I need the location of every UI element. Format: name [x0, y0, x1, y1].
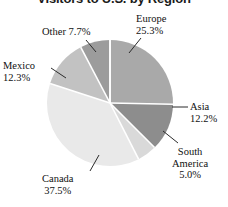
- label-canada: Canada 37.5%: [42, 173, 74, 196]
- label-asia-name: Asia: [190, 101, 217, 113]
- label-europe-pct: 25.3%: [136, 25, 166, 37]
- label-other-name: Other: [42, 26, 69, 37]
- label-south-america-name-line2: America: [172, 158, 208, 170]
- label-south-america-name-line1: South: [172, 146, 208, 158]
- leader-line-canada: [90, 155, 99, 171]
- label-asia: Asia 12.2%: [190, 101, 217, 124]
- label-other: Other 7.7%: [42, 26, 90, 38]
- label-europe-name: Europe: [136, 13, 166, 25]
- label-mexico: Mexico 12.3%: [3, 60, 35, 83]
- label-canada-name: Canada: [42, 173, 74, 185]
- label-canada-pct: 37.5%: [42, 185, 74, 197]
- leader-line-south-america: [163, 131, 178, 143]
- leader-line-mexico: [51, 68, 66, 78]
- label-south-america-pct: 5.0%: [172, 169, 208, 181]
- label-mexico-pct: 12.3%: [3, 72, 35, 84]
- label-south-america: South America 5.0%: [172, 146, 208, 181]
- label-mexico-name: Mexico: [3, 60, 35, 72]
- label-other-pct: 7.7%: [69, 26, 91, 37]
- leader-line-other: [86, 40, 96, 52]
- leader-line-europe: [129, 38, 141, 53]
- pie-chart-figure: Visitors to U.S. by Region: [0, 0, 228, 207]
- label-europe: Europe 25.3%: [136, 13, 166, 36]
- label-asia-pct: 12.2%: [190, 113, 217, 125]
